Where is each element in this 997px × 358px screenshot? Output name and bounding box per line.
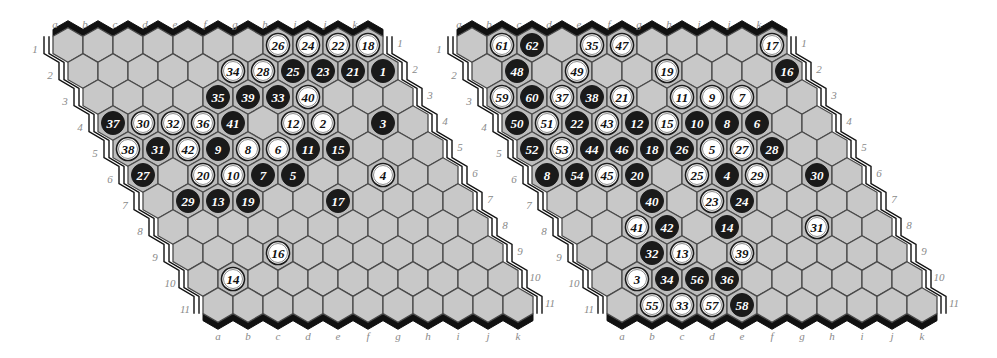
white-stone-f2[interactable]: 34	[222, 60, 245, 83]
black-stone-c10[interactable]: 34	[656, 268, 679, 291]
white-stone-f6[interactable]: 25	[686, 164, 709, 187]
black-stone-a5[interactable]: 52	[521, 138, 544, 161]
white-stone-d6[interactable]: 10	[222, 164, 245, 187]
black-stone-e11[interactable]: 58	[731, 294, 754, 317]
white-stone-c8[interactable]: 41	[626, 216, 649, 239]
black-stone-a4[interactable]: 37	[102, 112, 125, 135]
black-stone-f3[interactable]: 39	[237, 86, 260, 109]
black-stone-f8[interactable]: 14	[716, 216, 739, 239]
white-stone-f7[interactable]: 23	[701, 190, 724, 213]
white-stone-b10[interactable]: 14	[222, 268, 245, 291]
black-stone-g6[interactable]: 4	[716, 164, 739, 187]
white-stone-h6[interactable]: 29	[746, 164, 769, 187]
white-stone-h1[interactable]: 26	[267, 34, 290, 57]
white-stone-i6[interactable]: 4	[372, 164, 395, 187]
white-stone-h4[interactable]: 2	[312, 112, 335, 135]
black-stone-e6[interactable]: 7	[252, 164, 275, 187]
white-stone-g2[interactable]: 28	[252, 60, 275, 83]
black-stone-i4[interactable]: 6	[746, 112, 769, 135]
white-stone-k1[interactable]: 17	[761, 34, 784, 57]
black-stone-h5[interactable]: 15	[327, 138, 350, 161]
black-stone-g7[interactable]: 24	[731, 190, 754, 213]
black-stone-j6[interactable]: 30	[806, 164, 829, 187]
black-stone-e4[interactable]: 12	[626, 112, 649, 135]
black-stone-a6[interactable]: 27	[132, 164, 155, 187]
black-stone-d7[interactable]: 19	[237, 190, 260, 213]
black-stone-c1[interactable]: 62	[521, 34, 544, 57]
black-stone-c4[interactable]: 22	[566, 112, 589, 135]
black-stone-e4[interactable]: 41	[222, 112, 245, 135]
white-stone-b11[interactable]: 55	[641, 294, 664, 317]
white-stone-g2[interactable]: 19	[656, 60, 679, 83]
black-stone-j2[interactable]: 21	[342, 60, 365, 83]
black-stone-c9[interactable]: 32	[641, 242, 664, 265]
black-stone-f5[interactable]: 26	[671, 138, 694, 161]
black-stone-d8[interactable]: 42	[656, 216, 679, 239]
white-stone-j1[interactable]: 22	[327, 34, 350, 57]
white-stone-f1[interactable]: 47	[611, 34, 634, 57]
white-stone-c4[interactable]: 32	[162, 112, 185, 135]
white-stone-d4[interactable]: 36	[192, 112, 215, 135]
black-stone-h2[interactable]: 25	[282, 60, 305, 83]
white-stone-d11[interactable]: 57	[701, 294, 724, 317]
black-stone-g5[interactable]: 11	[297, 138, 320, 161]
black-stone-e10[interactable]: 36	[716, 268, 739, 291]
black-stone-d3[interactable]: 38	[581, 86, 604, 109]
white-stone-h5[interactable]: 27	[731, 138, 754, 161]
black-stone-h4[interactable]: 8	[716, 112, 739, 135]
black-stone-d7[interactable]: 40	[641, 190, 664, 213]
black-stone-f6[interactable]: 5	[282, 164, 305, 187]
white-stone-g5[interactable]: 5	[701, 138, 724, 161]
white-stone-f9[interactable]: 39	[731, 242, 754, 265]
white-stone-c3[interactable]: 37	[551, 86, 574, 109]
white-stone-d9[interactable]: 16	[267, 242, 290, 265]
black-stone-g7[interactable]: 17	[327, 190, 350, 213]
white-stone-k1[interactable]: 18	[357, 34, 380, 57]
white-stone-b1[interactable]: 61	[491, 34, 514, 57]
white-stone-c6[interactable]: 20	[192, 164, 215, 187]
black-stone-b3[interactable]: 60	[521, 86, 544, 109]
black-stone-d5[interactable]: 9	[207, 138, 230, 161]
black-stone-j4[interactable]: 3	[372, 112, 395, 135]
white-stone-b4[interactable]: 30	[132, 112, 155, 135]
black-stone-d6[interactable]: 20	[626, 164, 649, 187]
black-stone-c7[interactable]: 13	[207, 190, 230, 213]
white-stone-h3[interactable]: 40	[297, 86, 320, 109]
white-stone-d9[interactable]: 13	[671, 242, 694, 265]
white-stone-e3[interactable]: 21	[611, 86, 634, 109]
white-stone-a5[interactable]: 38	[117, 138, 140, 161]
white-stone-c6[interactable]: 45	[596, 164, 619, 187]
black-stone-a4[interactable]: 50	[506, 112, 529, 135]
white-stone-i1[interactable]: 24	[297, 34, 320, 57]
black-stone-i5[interactable]: 28	[761, 138, 784, 161]
white-stone-i8[interactable]: 31	[806, 216, 829, 239]
white-stone-f5[interactable]: 6	[267, 138, 290, 161]
white-stone-a3[interactable]: 59	[491, 86, 514, 109]
black-stone-d10[interactable]: 56	[686, 268, 709, 291]
black-stone-b7[interactable]: 29	[177, 190, 200, 213]
white-stone-b4[interactable]: 51	[536, 112, 559, 135]
white-stone-i3[interactable]: 7	[731, 86, 754, 109]
white-stone-g4[interactable]: 12	[282, 112, 305, 135]
white-stone-h3[interactable]: 9	[701, 86, 724, 109]
white-stone-e1[interactable]: 35	[581, 34, 604, 57]
black-stone-e5[interactable]: 18	[641, 138, 664, 161]
black-stone-b6[interactable]: 54	[566, 164, 589, 187]
white-stone-e5[interactable]: 8	[237, 138, 260, 161]
white-stone-c5[interactable]: 42	[177, 138, 200, 161]
black-stone-b5[interactable]: 31	[147, 138, 170, 161]
white-stone-b5[interactable]: 53	[551, 138, 574, 161]
black-stone-a6[interactable]: 8	[536, 164, 559, 187]
black-stone-d5[interactable]: 46	[611, 138, 634, 161]
black-stone-g3[interactable]: 33	[267, 86, 290, 109]
black-stone-k2[interactable]: 1	[372, 60, 395, 83]
black-stone-k2[interactable]: 16	[776, 60, 799, 83]
white-stone-d2[interactable]: 49	[566, 60, 589, 83]
white-stone-b10[interactable]: 3	[626, 268, 649, 291]
white-stone-f4[interactable]: 15	[656, 112, 679, 135]
white-stone-d4[interactable]: 43	[596, 112, 619, 135]
white-stone-g3[interactable]: 11	[671, 86, 694, 109]
black-stone-b2[interactable]: 48	[506, 60, 529, 83]
black-stone-g4[interactable]: 10	[686, 112, 709, 135]
black-stone-i2[interactable]: 23	[312, 60, 335, 83]
